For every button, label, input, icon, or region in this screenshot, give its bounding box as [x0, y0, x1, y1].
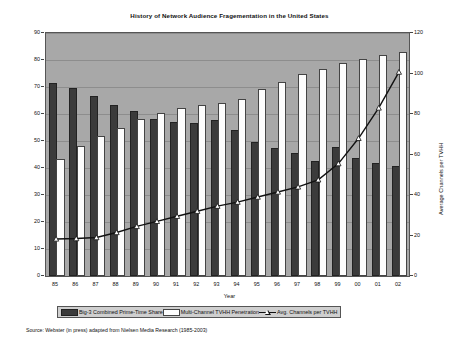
x-axis-tick: 88: [113, 281, 119, 287]
legend-swatch-line-icon: [259, 309, 276, 315]
x-axis-tick: 96: [274, 281, 280, 287]
legend-label-big3: Big-3 Combined Prime-Time Share: [79, 309, 163, 315]
x-axis-tick: 87: [92, 281, 98, 287]
legend-item-multichannel: Multi-Channel TVHH Penetration: [163, 309, 259, 316]
legend-item-avg-channels: Avg. Channels per TVHH: [259, 309, 337, 315]
x-axis-tick: 92: [193, 281, 199, 287]
x-axis-tick: 94: [234, 281, 240, 287]
x-axis-tick: 91: [173, 281, 179, 287]
y-axis-right-tick: 0: [414, 272, 440, 278]
y-axis-left-tick: 50: [14, 137, 40, 143]
x-axis-tick: 93: [213, 281, 219, 287]
chart-title: History of Network Audience Fragementati…: [0, 12, 459, 19]
x-axis-tick: 02: [395, 281, 401, 287]
x-axis-tick: 01: [375, 281, 381, 287]
x-axis-tick: 97: [294, 281, 300, 287]
x-axis-tick: 89: [133, 281, 139, 287]
y-axis-left-tick: 0: [14, 272, 40, 278]
x-axis-tick: 90: [153, 281, 159, 287]
y-axis-right-tick: 40: [414, 191, 440, 197]
legend-item-big3: Big-3 Combined Prime-Time Share: [61, 309, 163, 316]
x-axis-tick: 99: [334, 281, 340, 287]
x-axis-tick: 95: [254, 281, 260, 287]
y-axis-right-title: Average Channels per TVHH: [438, 143, 444, 215]
y-axis-left-tick: 70: [14, 83, 40, 89]
plot-area: [45, 32, 410, 277]
line-marker: [396, 69, 401, 74]
legend-label-avg-channels: Avg. Channels per TVHH: [277, 309, 337, 315]
y-axis-left-tick: 20: [14, 218, 40, 224]
y-axis-left-tick: 30: [14, 191, 40, 197]
y-axis-left-tick: 60: [14, 110, 40, 116]
y-axis-right-tick: 100: [414, 70, 440, 76]
legend-swatch-light-icon: [163, 309, 180, 316]
legend-swatch-dark-icon: [61, 309, 78, 316]
y-axis-right-tick: 80: [414, 110, 440, 116]
y-axis-right-tick: 60: [414, 151, 440, 157]
chart-container: History of Network Audience Fragementati…: [0, 0, 459, 342]
x-axis-tick: 00: [355, 281, 361, 287]
avg-channels-line: [56, 72, 399, 239]
y-axis-right-tick: 120: [414, 29, 440, 35]
source-note: Source: Webster (in press) adapted from …: [26, 327, 207, 333]
legend-label-multichannel: Multi-Channel TVHH Penetration: [181, 309, 259, 315]
y-axis-left-tick: 90: [14, 29, 40, 35]
x-axis-title: Year: [0, 293, 459, 299]
x-axis-tick: 86: [72, 281, 78, 287]
y-axis-left-tick: 80: [14, 56, 40, 62]
y-axis-left-tick: 40: [14, 164, 40, 170]
line-series-avg-channels: [46, 33, 409, 276]
y-axis-left-tick: 10: [14, 245, 40, 251]
x-axis-tick: 85: [52, 281, 58, 287]
y-axis-right-tick: 20: [414, 232, 440, 238]
chart-legend: Big-3 Combined Prime-Time Share Multi-Ch…: [57, 306, 341, 318]
x-axis-tick: 98: [314, 281, 320, 287]
